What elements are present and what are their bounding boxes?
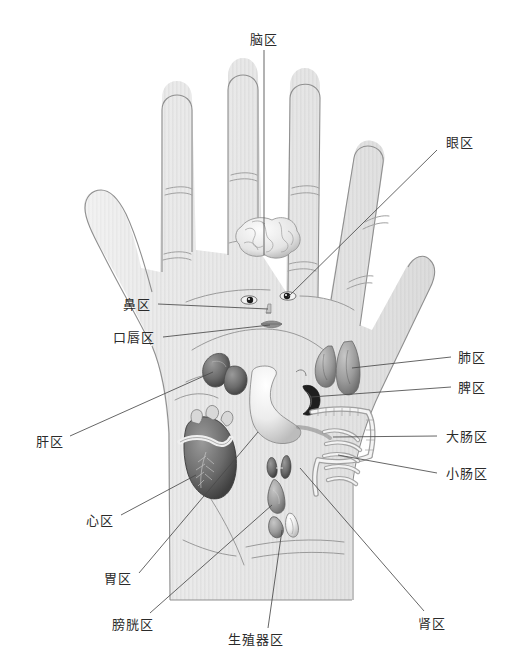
zone-label-heart[interactable]: 心区 [86, 513, 114, 528]
zone-label-mouth-lips[interactable]: 口唇区 [113, 330, 155, 345]
zone-label-reproductive[interactable]: 生殖器区 [228, 632, 284, 647]
eye-left-organ [241, 296, 257, 304]
zone-label-stomach[interactable]: 胃区 [104, 571, 132, 586]
zone-label-kidney[interactable]: 肾区 [418, 616, 446, 631]
zone-label-bladder[interactable]: 膀胱区 [112, 617, 154, 632]
reflexology-diagram-canvas: 脑区眼区鼻区口唇区肺区脾区大肠区小肠区肝区心区胃区膀胱区生殖器区肾区 [0, 0, 515, 672]
zone-label-small-intestine[interactable]: 小肠区 [446, 466, 488, 481]
zone-label-large-intestine[interactable]: 大肠区 [446, 429, 488, 444]
zone-label-lung[interactable]: 肺区 [458, 350, 486, 365]
hand-diagram-svg [0, 0, 515, 672]
zone-label-spleen[interactable]: 脾区 [458, 380, 486, 395]
zone-label-nose[interactable]: 鼻区 [123, 297, 151, 312]
eye-right-organ [280, 292, 296, 300]
brain-organ [236, 218, 300, 259]
zone-label-eye[interactable]: 眼区 [446, 135, 474, 150]
zone-label-brain[interactable]: 脑区 [250, 32, 278, 47]
zone-label-liver[interactable]: 肝区 [36, 434, 64, 449]
